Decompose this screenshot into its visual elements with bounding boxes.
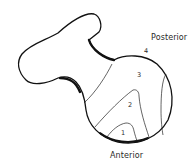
neck-upper-thick [89, 40, 114, 60]
region-label-2: 2 [128, 102, 132, 109]
region-label-3: 3 [137, 72, 141, 79]
region-label-1: 1 [121, 130, 125, 137]
outer-contour [19, 14, 173, 143]
posterior-label: Posterior [151, 34, 187, 42]
diagram-figure: Posterior Anterior 4 3 2 1 [0, 0, 190, 166]
region-label-4: 4 [144, 48, 148, 55]
neck-lower-thick [60, 78, 80, 92]
anterior-label: Anterior [110, 152, 143, 160]
outline-drawing [0, 0, 190, 166]
boundary-line-3 [84, 64, 112, 103]
